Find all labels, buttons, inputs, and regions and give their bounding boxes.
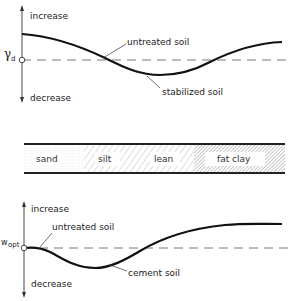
y-subscript: d bbox=[11, 55, 15, 63]
increase-label: increase bbox=[31, 204, 69, 214]
top-chart: γ d increase decrease untreated soil sta… bbox=[4, 5, 288, 103]
arrow-up-icon bbox=[22, 201, 26, 207]
untreated-label: untreated soil bbox=[127, 37, 189, 47]
decrease-label: decrease bbox=[30, 93, 71, 103]
stabilized-leader bbox=[147, 76, 160, 88]
arrow-down-icon bbox=[20, 97, 24, 103]
label-fat-clay: fat clay bbox=[217, 154, 251, 164]
soil-stabilization-diagram: γ d increase decrease untreated soil sta… bbox=[0, 0, 291, 301]
y-subscript: opt bbox=[8, 241, 20, 249]
label-sand: sand bbox=[36, 154, 58, 164]
y-symbol: w bbox=[1, 238, 8, 247]
untreated-label: untreated soil bbox=[52, 222, 114, 232]
origin-marker bbox=[19, 57, 25, 63]
label-lean: lean bbox=[154, 154, 173, 164]
untreated-leader bbox=[40, 233, 52, 247]
label-silt: silt bbox=[98, 154, 112, 164]
increase-label: increase bbox=[30, 11, 68, 21]
cement-leader bbox=[110, 265, 127, 271]
cement-label: cement soil bbox=[128, 268, 180, 278]
bottom-chart: w opt increase decrease untreated soil c… bbox=[1, 201, 288, 298]
decrease-label: decrease bbox=[31, 279, 72, 289]
stabilized-label: stabilized soil bbox=[162, 87, 223, 97]
untreated-leader bbox=[103, 44, 126, 58]
origin-marker bbox=[21, 245, 27, 251]
arrow-down-icon bbox=[22, 292, 26, 298]
soil-strip: sand silt lean fat clay bbox=[24, 144, 285, 173]
arrow-up-icon bbox=[20, 5, 24, 11]
